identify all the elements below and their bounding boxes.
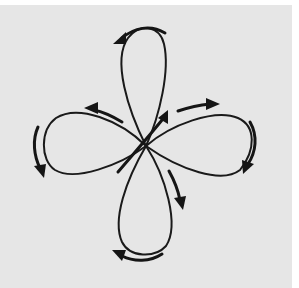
rose-curve-diagram — [0, 0, 299, 288]
right-lobe — [146, 115, 252, 176]
top-lobe — [121, 28, 165, 146]
arrow-head-icon — [84, 102, 98, 114]
arrow-head-icon — [113, 32, 126, 44]
arrow-left-outer — [34, 127, 40, 168]
arrow-head-icon — [242, 160, 254, 174]
arrow-lower-right-inner — [169, 171, 180, 200]
arrow-upper-right-inner — [178, 104, 210, 111]
arrow-head-icon — [112, 250, 126, 261]
arrow-head-icon — [34, 164, 46, 178]
arrow-head-icon — [174, 196, 186, 210]
rose-curve — [44, 28, 252, 255]
arrow-head-icon — [206, 98, 220, 110]
left-lobe — [44, 113, 146, 174]
